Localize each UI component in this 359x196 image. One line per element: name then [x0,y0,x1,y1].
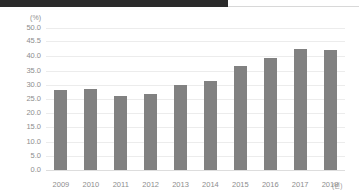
y-axis: (%) 0.05.010.015.020.025.030.035.040.045… [0,7,44,196]
y-axis-tick-label: 25.0 [26,95,41,103]
top-decorative-band [0,0,228,7]
bar [204,81,217,170]
y-axis-tick-label: 10.0 [26,138,41,146]
x-axis: (년) 200920102011201220132014201520162017… [46,180,345,196]
x-axis-tick-label: 2012 [136,180,166,189]
x-axis-tick-label: 2011 [106,180,136,189]
bar [84,89,97,170]
bar [54,90,67,170]
x-axis-tick-label: 2009 [46,180,76,189]
y-axis-tick-label: 20.0 [26,109,41,117]
bar-chart: (%) 0.05.010.015.020.025.030.035.040.045… [0,7,359,196]
bar [264,58,277,170]
y-axis-tick-label: 0.0 [31,166,41,174]
bar [114,96,127,170]
x-axis-tick-label: 2017 [285,180,315,189]
bar [234,66,247,171]
x-axis-tick-label: 2015 [225,180,255,189]
x-axis-tick-label: 2010 [76,180,106,189]
bar [294,49,307,170]
y-axis-tick-label: 50.0 [26,24,41,32]
x-axis-tick-label: 2016 [255,180,285,189]
y-axis-tick-label: 40.0 [26,52,41,60]
bar [324,50,337,170]
x-axis-tick-label: 2013 [166,180,196,189]
bar [174,85,187,170]
gridline [46,170,345,171]
y-axis-tick-label: 45.5 [26,37,41,45]
bar [144,94,157,170]
y-axis-tick-label: 5.0 [31,152,41,160]
y-axis-tick-label: 35.0 [26,67,41,75]
y-axis-unit-label: (%) [30,14,41,22]
plot-area [46,28,345,170]
y-axis-tick-label: 30.0 [26,81,41,89]
y-axis-tick-label: 15.0 [26,123,41,131]
bar-series [46,28,345,170]
x-axis-tick-label: 2014 [195,180,225,189]
x-axis-tick-label: 2018 [315,180,345,189]
